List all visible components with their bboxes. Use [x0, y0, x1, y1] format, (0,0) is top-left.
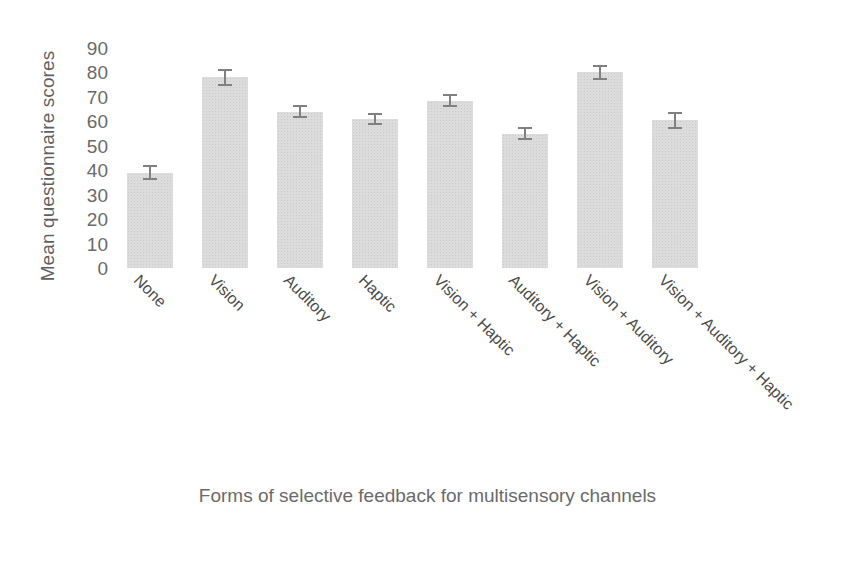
y-axis-tick-30: 30 [60, 185, 108, 204]
bar [277, 112, 323, 268]
error-bar-cap-bottom [218, 84, 232, 86]
x-axis-tick-label: Vision + Haptic [430, 272, 517, 359]
error-bar-cap-top [518, 127, 532, 129]
error-bar-cap-top [593, 65, 607, 67]
error-bar-cap-top [293, 105, 307, 107]
error-bar-cap-bottom [368, 123, 382, 125]
x-axis-tick-label: Vision [205, 272, 247, 314]
y-axis-tick-70: 70 [60, 87, 108, 106]
error-bar-cap-top [368, 113, 382, 115]
bar [502, 134, 548, 268]
bar-chart-figure: Mean questionnaire scores 90807060504030… [0, 0, 855, 562]
y-axis-tick-20: 20 [60, 210, 108, 229]
bar [577, 72, 623, 268]
y-axis-tick-labels: 9080706050403020100 [60, 38, 108, 270]
y-axis-tick-0: 0 [60, 259, 108, 278]
bar [652, 120, 698, 268]
error-bar-cap-top [143, 165, 157, 167]
error-bar-cap-top [668, 112, 682, 114]
error-bar-cap-bottom [518, 138, 532, 140]
bar-group [427, 48, 473, 268]
x-axis-tick-label: Vision + Auditory + Haptic [655, 272, 796, 413]
x-axis-title: Forms of selective feedback for multisen… [0, 485, 855, 507]
x-axis-tick-label: None [130, 272, 168, 310]
y-axis-tick-50: 50 [60, 136, 108, 155]
bar [427, 101, 473, 268]
bar-group [127, 48, 173, 268]
error-bar-cap-bottom [443, 105, 457, 107]
error-bar-cap-top [218, 69, 232, 71]
bar [127, 173, 173, 268]
y-axis-tick-80: 80 [60, 63, 108, 82]
bar [352, 119, 398, 268]
bar-group [202, 48, 248, 268]
error-bar-cap-bottom [668, 127, 682, 129]
bar-group [352, 48, 398, 268]
plot-area [112, 48, 712, 268]
y-axis-tick-90: 90 [60, 39, 108, 58]
bar-group [577, 48, 623, 268]
error-bar-cap-bottom [143, 178, 157, 180]
x-axis-tick-label: Haptic [355, 272, 398, 315]
bar-group [652, 48, 698, 268]
error-bar-cap-top [443, 94, 457, 96]
error-bar-cap-bottom [293, 116, 307, 118]
error-bar-cap-bottom [593, 78, 607, 80]
bar-group [502, 48, 548, 268]
y-axis-tick-40: 40 [60, 161, 108, 180]
x-axis-tick-label: Auditory [280, 272, 333, 325]
y-axis-tick-60: 60 [60, 112, 108, 131]
y-axis-title: Mean questionnaire scores [37, 36, 59, 296]
y-axis-tick-10: 10 [60, 234, 108, 253]
bar [202, 77, 248, 268]
bar-group [277, 48, 323, 268]
